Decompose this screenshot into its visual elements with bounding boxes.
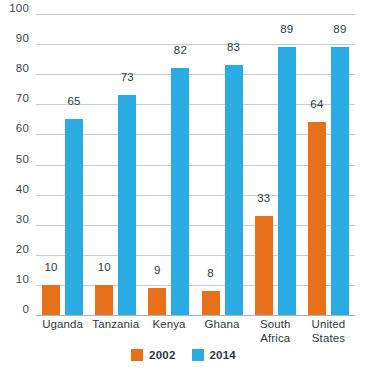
legend-swatch xyxy=(192,349,204,361)
bar-column: 89 xyxy=(278,14,296,315)
x-axis-category-label: Uganda xyxy=(36,318,89,345)
bar-column: 8 xyxy=(202,14,220,315)
legend-label: 2014 xyxy=(210,349,236,361)
bar-column: 9 xyxy=(148,14,166,315)
bar-2014[interactable] xyxy=(118,95,136,315)
x-axis-category-label: Tanzania xyxy=(89,318,142,345)
y-axis-tick-label: 40 xyxy=(16,183,29,195)
bar-column: 64 xyxy=(308,14,326,315)
x-axis-category-label: UnitedStates xyxy=(302,318,355,345)
bar-value-label: 73 xyxy=(121,71,134,83)
bar-column: 33 xyxy=(255,14,273,315)
bar-2002[interactable] xyxy=(308,122,326,315)
bar-value-label: 65 xyxy=(67,95,80,107)
legend-swatch xyxy=(131,349,143,361)
bar-value-label: 89 xyxy=(280,23,293,35)
bar-2002[interactable] xyxy=(255,216,273,315)
x-axis-category-label: SouthAfrica xyxy=(249,318,302,345)
bar-value-label: 10 xyxy=(98,261,111,273)
bar-2014[interactable] xyxy=(331,47,349,315)
plot-area: 0102030405060708090100 10651073982883338… xyxy=(36,14,355,315)
axis-baseline: 0 xyxy=(36,315,355,316)
bar-group: 982 xyxy=(142,14,195,315)
bar-2002[interactable] xyxy=(148,288,166,315)
bar-group: 6489 xyxy=(302,14,355,315)
bar-column: 89 xyxy=(331,14,349,315)
y-axis-tick-label: 10 xyxy=(16,273,29,285)
bar-2014[interactable] xyxy=(65,119,83,315)
bar-group: 1073 xyxy=(89,14,142,315)
bar-value-label: 82 xyxy=(174,44,187,56)
bar-column: 82 xyxy=(171,14,189,315)
x-axis-category-label: Ghana xyxy=(196,318,249,345)
bar-value-label: 9 xyxy=(154,264,161,276)
y-axis-tick-label: 0 xyxy=(22,303,29,315)
y-axis-tick-label: 60 xyxy=(16,122,29,134)
bar-value-label: 83 xyxy=(227,41,240,53)
legend-label: 2002 xyxy=(149,349,175,361)
x-axis-category-label: Kenya xyxy=(142,318,195,345)
legend-item-2014[interactable]: 2014 xyxy=(192,349,236,361)
legend-item-2002[interactable]: 2002 xyxy=(131,349,175,361)
bar-group: 3389 xyxy=(249,14,302,315)
bar-column: 83 xyxy=(225,14,243,315)
bar-chart: 0102030405060708090100 10651073982883338… xyxy=(0,0,367,372)
y-axis-tick-label: 30 xyxy=(16,213,29,225)
bar-2014[interactable] xyxy=(171,68,189,315)
bar-2002[interactable] xyxy=(95,285,113,315)
bar-value-label: 33 xyxy=(257,192,270,204)
y-axis-tick-label: 50 xyxy=(16,153,29,165)
bar-2014[interactable] xyxy=(225,65,243,315)
y-axis-tick-label: 20 xyxy=(16,243,29,255)
bar-value-label: 8 xyxy=(207,267,214,279)
y-axis-tick-label: 90 xyxy=(16,32,29,44)
bar-group: 1065 xyxy=(36,14,89,315)
bar-value-label: 89 xyxy=(333,23,346,35)
y-axis-tick-label: 100 xyxy=(9,2,29,14)
x-axis-labels: UgandaTanzaniaKenyaGhanaSouthAfricaUnite… xyxy=(36,318,355,345)
bar-column: 73 xyxy=(118,14,136,315)
bar-2014[interactable] xyxy=(278,47,296,315)
chart-legend: 20022014 xyxy=(0,349,367,361)
y-axis-tick-label: 80 xyxy=(16,62,29,74)
bar-groups: 1065107398288333896489 xyxy=(36,14,355,315)
bar-2002[interactable] xyxy=(42,285,60,315)
y-axis-tick-label: 70 xyxy=(16,92,29,104)
bar-column: 10 xyxy=(95,14,113,315)
bar-value-label: 10 xyxy=(44,261,57,273)
bar-group: 883 xyxy=(196,14,249,315)
bar-column: 65 xyxy=(65,14,83,315)
bar-column: 10 xyxy=(42,14,60,315)
bar-value-label: 64 xyxy=(310,98,323,110)
bar-2002[interactable] xyxy=(202,291,220,315)
